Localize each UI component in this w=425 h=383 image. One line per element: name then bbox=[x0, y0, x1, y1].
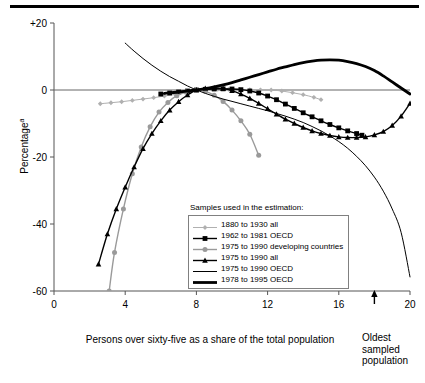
oldest-note-line-1: Oldest bbox=[362, 332, 424, 344]
series-marker-circle bbox=[148, 124, 153, 129]
series-marker-diamond bbox=[311, 95, 316, 100]
series-marker-circle bbox=[121, 206, 126, 211]
series-marker-square bbox=[256, 91, 261, 96]
chart-plot-area: +200-20-40-60048121620 bbox=[0, 0, 425, 383]
x-tick-label: 12 bbox=[262, 299, 274, 310]
series-marker-square bbox=[336, 125, 341, 130]
chart-page: +200-20-40-60048121620 Percentagea Perso… bbox=[0, 0, 425, 383]
annotation-arrow-group bbox=[371, 290, 377, 304]
y-tick-label: -40 bbox=[33, 219, 48, 230]
y-tick-label: 0 bbox=[41, 85, 47, 96]
legend-item-label: 1975 to 1990 OECD bbox=[221, 263, 293, 274]
series-marker-diamond bbox=[141, 97, 146, 102]
chart-legend: Samples used in the estimation: 1880 to … bbox=[188, 203, 349, 292]
legend-key-line-icon bbox=[192, 263, 218, 274]
series-marker-diamond bbox=[269, 88, 274, 93]
series-marker-diamond bbox=[109, 100, 114, 105]
legend-key-square-icon bbox=[192, 230, 218, 241]
x-axis-title: Persons over sixty-five as a share of th… bbox=[54, 334, 366, 345]
series-marker-circle bbox=[238, 118, 243, 123]
x-tick-label: 4 bbox=[122, 299, 128, 310]
y-axis-title-superscript: a bbox=[18, 119, 25, 123]
x-tick-label: 16 bbox=[333, 299, 345, 310]
legend-item[interactable]: 1962 to 1981 OECD bbox=[192, 230, 343, 241]
y-tick-label: -60 bbox=[33, 286, 48, 297]
series-marker-diamond bbox=[130, 98, 135, 103]
legend-key-diamond-icon bbox=[192, 219, 218, 230]
series-marker-circle bbox=[157, 110, 162, 115]
oldest-note-line-3: population bbox=[362, 355, 424, 367]
series-marker-triangle bbox=[122, 184, 128, 189]
series-marker-diamond bbox=[290, 90, 295, 95]
x-tick-label: 8 bbox=[194, 299, 200, 310]
series-marker-diamond bbox=[279, 89, 284, 94]
series-marker-triangle bbox=[96, 261, 102, 266]
series-marker-triangle bbox=[407, 101, 413, 106]
x-tick-label: 0 bbox=[51, 299, 57, 310]
legend-item-label: 1880 to 1930 all bbox=[221, 219, 278, 230]
series-marker-diamond bbox=[119, 99, 124, 104]
series-marker-circle bbox=[174, 93, 179, 98]
x-tick-label: 20 bbox=[404, 299, 416, 310]
legend-key-line-icon bbox=[192, 274, 218, 285]
legend-item[interactable]: 1880 to 1930 all bbox=[192, 219, 343, 230]
legend-item-label: 1975 to 1990 developing countries bbox=[221, 241, 343, 252]
series-marker-square bbox=[345, 128, 350, 133]
legend-caption: Samples used in the estimation: bbox=[190, 203, 349, 212]
series-marker-circle bbox=[230, 108, 235, 113]
oldest-note-line-2: sampled bbox=[362, 344, 424, 356]
series-marker-circle bbox=[107, 289, 112, 294]
legend-item[interactable]: 1975 to 1990 OECD bbox=[192, 263, 343, 274]
legend-item[interactable]: 1978 to 1995 OECD bbox=[192, 274, 343, 285]
series-marker-diamond bbox=[301, 92, 306, 97]
y-axis-title: Percentagea bbox=[18, 91, 30, 201]
series-marker-circle bbox=[165, 100, 170, 105]
legend-key-circle-icon bbox=[192, 241, 218, 252]
legend-item-label: 1978 to 1995 OECD bbox=[221, 274, 293, 285]
series-marker-square bbox=[292, 106, 297, 111]
series-marker-square bbox=[158, 92, 163, 97]
series-marker-square bbox=[328, 122, 333, 127]
series-marker-triangle bbox=[131, 164, 137, 169]
oldest-sampled-population-annotation: Oldest sampled population bbox=[362, 332, 424, 367]
series-marker-diamond bbox=[151, 95, 156, 100]
legend-box: 1880 to 1930 all1962 to 1981 OECD1975 to… bbox=[188, 215, 349, 289]
legend-item-label: 1975 to 1990 all bbox=[221, 252, 278, 263]
series-marker-square bbox=[310, 114, 315, 119]
series-marker-square bbox=[247, 89, 252, 94]
y-axis-title-text: Percentage bbox=[19, 123, 30, 174]
series-marker-square bbox=[301, 110, 306, 115]
series-marker-square bbox=[265, 94, 270, 99]
series-marker-triangle bbox=[256, 101, 262, 106]
series-marker-square bbox=[274, 97, 279, 102]
y-tick-label: +20 bbox=[30, 18, 47, 29]
legend-item[interactable]: 1975 to 1990 all bbox=[192, 252, 343, 263]
y-tick-label: -20 bbox=[33, 152, 48, 163]
series-line bbox=[164, 60, 410, 94]
legend-item-label: 1962 to 1981 OECD bbox=[221, 230, 293, 241]
series-marker-diamond bbox=[319, 97, 324, 102]
series-line bbox=[161, 89, 362, 135]
series-marker-circle bbox=[247, 132, 252, 137]
series-marker-triangle bbox=[105, 231, 111, 236]
series-6 bbox=[164, 60, 410, 94]
legend-key-triangle-icon bbox=[192, 252, 218, 263]
legend-item[interactable]: 1975 to 1990 developing countries bbox=[192, 241, 343, 252]
series-marker-square bbox=[319, 118, 324, 123]
series-marker-diamond bbox=[98, 101, 103, 106]
series-marker-circle bbox=[112, 250, 117, 255]
series-marker-square bbox=[283, 102, 288, 107]
series-marker-triangle bbox=[114, 206, 120, 211]
series-marker-circle bbox=[256, 153, 261, 158]
